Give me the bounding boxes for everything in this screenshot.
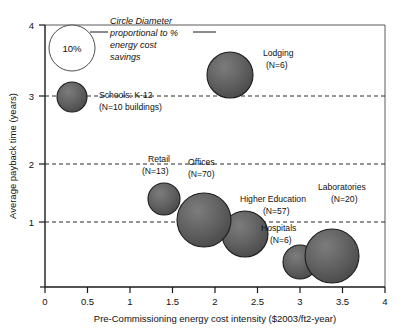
legend-note-line-3: energy cost — [110, 40, 157, 50]
bubble-chart-figure: 4 3 2 1 0 0.5 1 1.5 2 2.5 3 3.5 4 — [0, 0, 405, 332]
x-axis-title: Pre-Commissioning energy cost intensity … — [94, 313, 336, 324]
label-laboratories-line-1: Laboratories — [318, 182, 366, 192]
y-tick-label-2: 2 — [29, 159, 34, 170]
x-tick-label-4: 4 — [382, 296, 387, 307]
x-tick-label-3: 3 — [297, 296, 302, 307]
label-offices-line-1: Offices — [188, 157, 215, 167]
label-higher-education-line-2: (N=57) — [263, 206, 290, 216]
label-schools-line-2: (N=10 buildings) — [99, 102, 162, 112]
label-retail-line-2: (N=13) — [142, 166, 169, 176]
x-tick-label-0: 0 — [42, 296, 47, 307]
label-hospitals-line-2: (N=6) — [270, 235, 292, 245]
y-axis-title: Average payback time (years) — [7, 93, 18, 219]
label-hospitals-line-1: Hospitals — [261, 223, 296, 233]
x-tick-label-2-5: 2.5 — [251, 296, 264, 307]
x-tick-label-3-5: 3.5 — [336, 296, 349, 307]
legend-note-line-2: proportional to % — [109, 28, 178, 38]
legend-note-line-1: Circle Diameter — [110, 16, 173, 26]
y-tick-label-1: 1 — [29, 217, 34, 228]
bubble-offices[interactable] — [177, 193, 231, 247]
legend-bubble: 10% — [49, 25, 95, 71]
label-higher-education-line-1: Higher Education — [240, 194, 306, 204]
bubble-laboratories[interactable] — [305, 229, 359, 283]
label-offices-line-2: (N=70) — [188, 169, 215, 179]
x-tick-label-1: 1 — [127, 296, 132, 307]
label-lodging-line-1: Lodging — [263, 48, 294, 58]
label-schools-line-1: Schools: K-12 — [99, 90, 153, 100]
x-tick-label-2: 2 — [212, 296, 217, 307]
x-tick-label-0-5: 0.5 — [81, 296, 94, 307]
bubble-retail[interactable] — [148, 183, 180, 215]
y-tick-label-4: 4 — [29, 20, 34, 31]
label-lodging-line-2: (N=6) — [266, 60, 288, 70]
bubble-lodging[interactable] — [207, 52, 253, 98]
x-tick-label-1-5: 1.5 — [166, 296, 179, 307]
legend-bubble-label: 10% — [62, 43, 82, 54]
y-tick-label-3: 3 — [29, 91, 34, 102]
legend-note-line-4: savings — [110, 52, 141, 62]
label-retail-line-1: Retail — [148, 154, 170, 164]
label-laboratories-line-2: (N=20) — [331, 194, 358, 204]
bubble-schools[interactable] — [57, 82, 87, 112]
